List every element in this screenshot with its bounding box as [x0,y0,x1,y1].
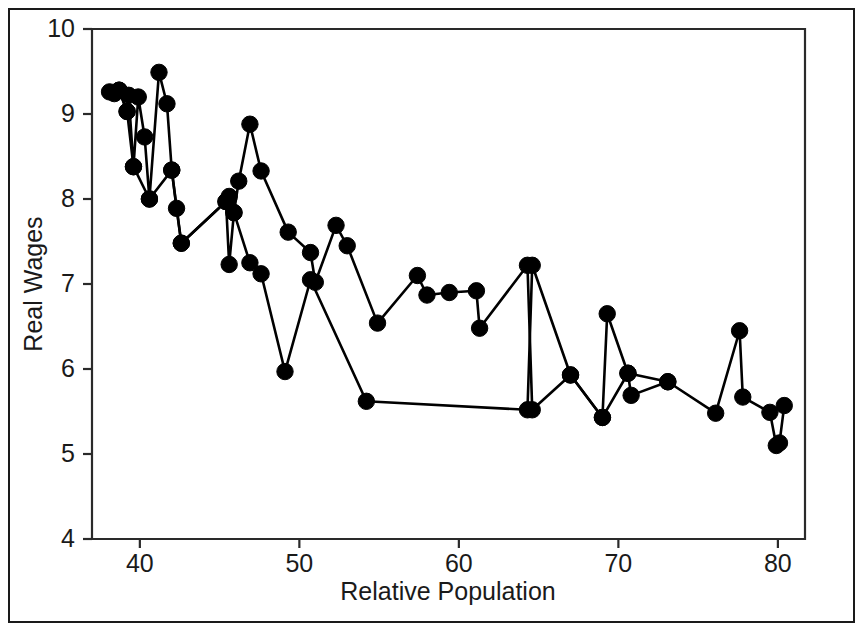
x-tick-label: 80 [764,549,792,577]
data-point-marker [226,204,242,220]
data-point-marker [119,103,135,119]
x-tick-label: 40 [126,549,154,577]
data-point-marker [468,283,484,299]
y-tick-label: 6 [61,354,75,382]
data-point-marker [620,365,636,381]
x-tick-label: 50 [285,549,313,577]
data-point-marker [130,89,146,105]
y-tick-label: 4 [61,524,75,552]
y-tick-label: 8 [61,184,75,212]
data-point-marker [159,96,175,112]
data-point-marker [623,387,639,403]
y-tick-label: 7 [61,269,75,297]
x-tick-label: 70 [604,549,632,577]
data-point-marker [173,235,189,251]
data-point-marker [253,266,269,282]
series-line [119,90,668,417]
data-point-marker [302,272,318,288]
data-point-marker [358,393,374,409]
data-point-marker [369,315,385,331]
data-point-marker [328,217,344,233]
data-point-marker [524,257,540,273]
data-point-marker [735,389,751,405]
data-point-marker [776,397,792,413]
y-tick-label: 9 [61,99,75,127]
data-point-marker [660,374,676,390]
data-point-marker [231,173,247,189]
data-point-marker [111,82,127,98]
data-point-marker [168,200,184,216]
data-point-marker [594,409,610,425]
data-point-marker [221,256,237,272]
data-point-marker [599,306,615,322]
data-point-marker [771,435,787,451]
data-point-marker [562,367,578,383]
data-point-marker [471,320,487,336]
data-point-marker [151,64,167,80]
data-series [110,72,785,445]
data-point-marker [242,116,258,132]
data-point-marker [136,129,152,145]
data-point-marker [339,238,355,254]
y-axis-title: Real Wages [19,216,47,351]
figure-container: 45678910 4050607080 Relative Population … [0,0,867,632]
data-point-marker [253,163,269,179]
data-point-marker [519,402,535,418]
data-point-marker [164,162,180,178]
data-point-marker [419,287,435,303]
data-point-marker [280,224,296,240]
data-point-marker [141,191,157,207]
y-tick-label: 10 [47,14,75,42]
data-point-marker [277,363,293,379]
data-point-marker [302,244,318,260]
data-point-marker [731,323,747,339]
data-point-marker [707,405,723,421]
y-axis-ticks: 45678910 [47,14,92,552]
chart-canvas: 45678910 4050607080 Relative Population … [0,0,867,632]
data-series-layer [101,64,792,454]
x-axis-title: Relative Population [340,577,555,605]
x-axis-ticks: 4050607080 [126,539,792,577]
series-line [110,72,785,445]
data-series [119,90,668,417]
y-tick-label: 5 [61,439,75,467]
x-tick-label: 60 [445,549,473,577]
data-markers [111,82,676,426]
data-point-marker [409,267,425,283]
data-point-marker [125,159,141,175]
data-point-marker [441,284,457,300]
